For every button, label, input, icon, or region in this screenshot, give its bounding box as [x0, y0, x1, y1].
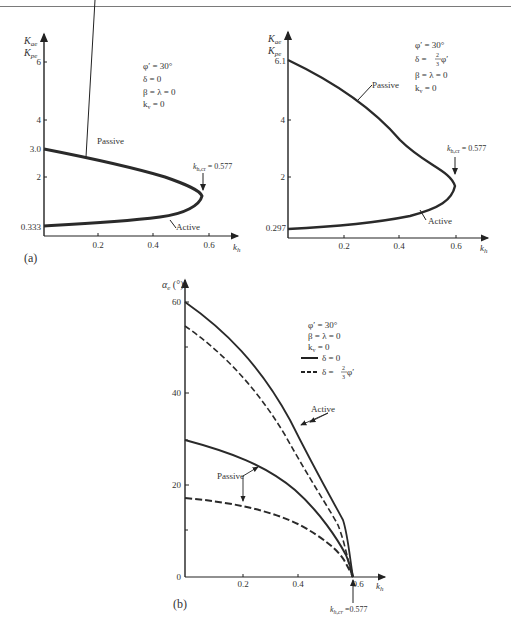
x-tick-label: 0.6 — [450, 241, 462, 251]
svg-text:φ′ = 30°: φ′ = 30° — [308, 320, 338, 330]
x-tick-label: 0.4 — [147, 240, 159, 250]
curve-active-dashed — [185, 326, 352, 577]
active-label: Active — [428, 216, 452, 226]
svg-text:φ′: φ′ — [441, 54, 448, 64]
figure: Kae Kpe 6 4 3.0 2 0.333 0.2 0.4 0.6 kh φ… — [0, 0, 511, 630]
svg-text:3: 3 — [436, 61, 439, 67]
y-tick-label: 40 — [172, 388, 182, 398]
legend-dashed-label: δ = — [322, 367, 334, 377]
svg-text:φ′ = 30°: φ′ = 30° — [415, 40, 445, 50]
x-ticks: 0.2 0.4 0.6 — [237, 574, 364, 589]
svg-text:δ = 0: δ = 0 — [143, 74, 162, 84]
x-axis-label: kh — [376, 581, 384, 593]
x-tick-label: 0.4 — [393, 241, 405, 251]
curve-passive-solid — [185, 440, 353, 577]
y-tick-label: 0.333 — [21, 222, 42, 232]
x-tick-label: 0.2 — [338, 241, 349, 251]
svg-text:β = λ = 0: β = λ = 0 — [308, 331, 341, 341]
chart-a-right: Kae Kpe 6.1 4 2 0.297 0.2 0.4 0.6 kh φ′ … — [266, 32, 488, 255]
svg-text:β = λ = 0: β = λ = 0 — [415, 70, 448, 80]
svg-text:2: 2 — [436, 52, 439, 58]
params: φ′ = 30° β = λ = 0 kv = 0 — [308, 320, 341, 353]
y-ticks: 6 4 3.0 2 0.333 — [21, 57, 47, 232]
svg-text:φ′: φ′ — [347, 367, 354, 377]
passive-label: Passive — [217, 471, 244, 481]
params: φ′ = 30° δ = 2 3 φ′ β = λ = 0 kv = 0 — [415, 40, 448, 94]
curve-passive-active — [44, 149, 202, 226]
y-tick-label: 20 — [172, 480, 182, 490]
active-label: Active — [311, 404, 335, 414]
curve-passive-dashed — [185, 498, 353, 577]
x-tick-label: 0.6 — [203, 240, 215, 250]
y-tick-label: 60 — [172, 297, 182, 307]
passive-label: Passive — [372, 80, 399, 90]
params: φ′ = 30° δ = 0 β = λ = 0 kv = 0 — [143, 61, 176, 110]
legend-solid-label: δ = 0 — [322, 353, 341, 363]
passive-leader — [358, 85, 372, 100]
chart-a-left: Kae Kpe 6 4 3.0 2 0.333 0.2 0.4 0.6 kh φ… — [21, 0, 241, 265]
legend: δ = 0 δ = 2 3 φ′ — [301, 353, 354, 380]
y-tick-label: 3.0 — [30, 144, 42, 154]
panel-label-a: (a) — [24, 251, 37, 265]
passive-leader-solid — [243, 467, 258, 476]
passive-label: Passive — [97, 136, 124, 146]
active-label: Active — [176, 222, 200, 232]
y-ticks: 6.1 4 2 0.297 — [266, 56, 291, 233]
critical-kh-label: kh,cr = 0.577 — [193, 162, 232, 172]
y-tick-label: 6 — [37, 57, 42, 67]
critical-kh-label: kh,cr = 0.577 — [447, 144, 486, 154]
y-tick-label: 4 — [37, 115, 42, 125]
critical-kh-label: kh,cr =0.577 — [330, 605, 368, 615]
y-tick-label: 2 — [37, 172, 42, 182]
svg-text:2: 2 — [342, 365, 345, 371]
active-leader-solid — [310, 413, 328, 422]
x-axis-label: kh — [480, 243, 488, 255]
y-tick-label: 2 — [281, 172, 286, 182]
y-axis-label: αe (°) — [162, 279, 184, 292]
y-tick-label: 4 — [281, 115, 286, 125]
svg-text:δ =: δ = — [415, 54, 427, 64]
svg-text:φ′ = 30°: φ′ = 30° — [143, 61, 173, 71]
svg-text:kv = 0: kv = 0 — [415, 83, 437, 94]
passive-leader — [86, 0, 95, 157]
svg-text:kv = 0: kv = 0 — [143, 99, 165, 110]
x-tick-label: 0.2 — [92, 240, 103, 250]
svg-text:kv = 0: kv = 0 — [308, 342, 330, 353]
panel-label-b: (b) — [173, 597, 187, 611]
y-tick-label: 0.297 — [266, 223, 287, 233]
x-tick-label: 0.2 — [237, 579, 248, 589]
x-tick-label: 0.6 — [352, 579, 364, 589]
y-axis-label-2: Kpe — [23, 47, 37, 60]
x-tick-label: 0.4 — [292, 579, 304, 589]
y-tick-label: 6.1 — [275, 56, 286, 66]
svg-text:β = λ = 0: β = λ = 0 — [143, 87, 176, 97]
y-tick-label: 0 — [177, 572, 182, 582]
svg-text:3: 3 — [342, 374, 345, 380]
chart-b: αe (°) 60 40 20 0 0.2 0.4 0.6 kh φ′ = 30… — [162, 279, 385, 615]
x-axis-label: kh — [233, 242, 241, 254]
